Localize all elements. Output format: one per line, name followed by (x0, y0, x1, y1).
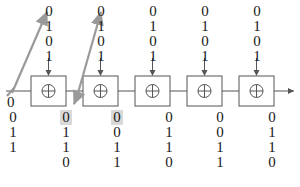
data-bit: 1 (111, 140, 123, 155)
key-bit: 0 (95, 4, 107, 19)
data-bit: 1 (266, 125, 278, 140)
xor-gate-4 (187, 76, 222, 106)
data-bit: 1 (7, 125, 19, 140)
data-bit: 1 (163, 140, 175, 155)
key-bit: 1 (147, 19, 159, 34)
key-bit: 1 (43, 19, 55, 34)
data-column-2: 0 1 1 0 (60, 110, 72, 170)
key-bit: 0 (95, 34, 107, 49)
key-bit: 1 (251, 49, 263, 64)
key-bit: 1 (43, 49, 55, 64)
wire-input-label: 0 (7, 95, 15, 110)
key-bit: 0 (147, 34, 159, 49)
data-bit: 1 (60, 140, 72, 155)
xor-gate-1 (31, 76, 66, 106)
data-bit: 0 (111, 125, 123, 140)
key-column-1: 0 1 0 1 (43, 4, 55, 64)
key-bit: 0 (43, 4, 55, 19)
key-bit: 1 (251, 19, 263, 34)
data-bit: 1 (163, 125, 175, 140)
data-bit: 0 (266, 155, 278, 170)
key-bit: 1 (147, 49, 159, 64)
key-bit: 0 (147, 4, 159, 19)
key-bit: 1 (199, 19, 211, 34)
data-column-5: 0 0 1 1 (214, 110, 226, 170)
key-bit: 0 (251, 4, 263, 19)
data-bit: 0 (7, 110, 19, 125)
data-bit: 1 (266, 140, 278, 155)
xor-gate-2 (83, 76, 118, 106)
data-bit: 0 (60, 155, 72, 170)
data-bit: 1 (214, 155, 226, 170)
key-column-4: 0 1 0 1 (199, 4, 211, 64)
key-bit: 0 (251, 34, 263, 49)
data-column-3: 0 0 1 1 (111, 110, 123, 170)
key-bit: 1 (95, 19, 107, 34)
data-bit: 1 (60, 125, 72, 140)
data-bit: 1 (7, 140, 19, 155)
xor-gate-5 (239, 76, 274, 106)
key-bit: 0 (199, 4, 211, 19)
data-bit-highlighted: 0 (111, 110, 123, 125)
data-bit: 0 (163, 110, 175, 125)
key-bit: 1 (95, 49, 107, 64)
key-column-2: 0 1 0 1 (95, 4, 107, 64)
key-bit: 0 (199, 34, 211, 49)
data-bit: 0 (266, 110, 278, 125)
data-bit: 0 (214, 110, 226, 125)
data-column-6: 0 1 1 0 (266, 110, 278, 170)
data-bit: 0 (214, 125, 226, 140)
key-bit: 0 (43, 34, 55, 49)
data-bit: 1 (214, 140, 226, 155)
gray-annotation-arrow-1 (7, 12, 47, 96)
key-column-5: 0 1 0 1 (251, 4, 263, 64)
key-bit: 1 (199, 49, 211, 64)
data-bit: 1 (111, 155, 123, 170)
data-column-1: 0 1 1 (7, 110, 19, 155)
data-bit: 0 (163, 155, 175, 170)
key-column-3: 0 1 0 1 (147, 4, 159, 64)
data-bit-highlighted: 0 (60, 110, 72, 125)
xor-stream-cipher-diagram: 0 0 1 0 1 0 1 0 1 0 1 0 1 0 1 0 1 0 1 0 … (0, 0, 300, 187)
xor-gate-3 (135, 76, 170, 106)
data-column-4: 0 1 1 0 (163, 110, 175, 170)
